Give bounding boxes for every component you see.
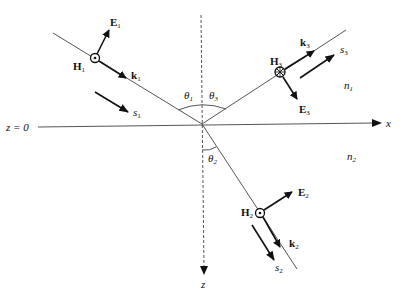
theta2-label: θ2 <box>208 152 217 166</box>
e2-label: E2 <box>298 186 309 200</box>
x-axis-arrow-icon <box>372 119 382 127</box>
theta1-label: θ1 <box>184 89 193 103</box>
h1-label: H1 <box>73 60 86 74</box>
x-axis-label: x <box>385 117 391 129</box>
z-axis-label: z <box>200 278 206 290</box>
z-axis-arrow-icon <box>200 266 208 275</box>
interface-line <box>38 123 374 127</box>
interface-label: z = 0 <box>5 121 29 133</box>
e3-label: E3 <box>299 103 310 117</box>
n2-label: n2 <box>347 150 357 164</box>
incident-wave: E1 H1 k1 s1 <box>73 16 141 120</box>
transmitted-ray <box>202 124 297 269</box>
k3-arrow-icon <box>285 51 314 69</box>
s3-arrow-icon <box>300 55 334 78</box>
diagram-canvas: x z = 0 z θ1 θ3 θ2 n1 n2 E1 H1 k1 s1 <box>0 0 403 299</box>
angle-arc-transmitted <box>202 147 216 150</box>
h3-label: H3 <box>270 55 283 69</box>
k1-arrow-icon <box>99 61 126 78</box>
k2-arrow-icon <box>263 217 280 247</box>
e1-arrow-icon <box>97 30 109 54</box>
s2-label: s2 <box>275 261 283 275</box>
reflected-ray <box>202 30 346 124</box>
s1-arrow-icon <box>95 92 128 112</box>
diagram-svg: x z = 0 z θ1 θ3 θ2 n1 n2 E1 H1 k1 s1 <box>0 0 403 299</box>
k3-label: k3 <box>300 36 310 50</box>
incident-ray <box>53 33 202 124</box>
k1-label: k1 <box>131 69 141 83</box>
e1-label: E1 <box>110 16 121 30</box>
z-axis-line <box>201 15 204 268</box>
n1-label: n1 <box>344 79 353 93</box>
e3-arrow-icon <box>283 77 297 99</box>
h2-label: H2 <box>241 206 254 220</box>
s3-label: s3 <box>340 43 348 57</box>
s1-label: s1 <box>133 106 141 120</box>
e2-arrow-icon <box>264 192 292 210</box>
theta3-label: θ3 <box>209 89 218 103</box>
reflected-wave: k3 s3 H3 E3 <box>270 36 348 117</box>
k2-label: k2 <box>289 237 299 251</box>
